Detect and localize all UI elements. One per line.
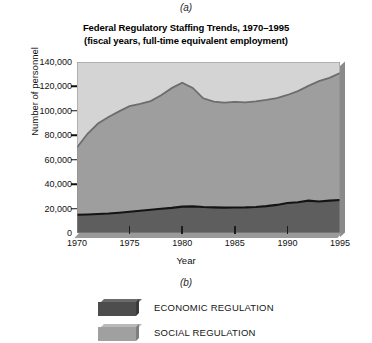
legend-swatch [98, 324, 142, 341]
legend-swatch [98, 299, 142, 316]
legend-item: ECONOMIC REGULATION [98, 296, 358, 318]
x-tick-label: 1975 [120, 238, 140, 248]
legend-label: SOCIAL REGULATION [154, 327, 256, 338]
chart-plot-container: 020,00040,00060,00080,000100,000120,0001… [0, 0, 372, 275]
x-axis-title: Year [0, 255, 372, 266]
x-tick-label: 1980 [172, 238, 192, 248]
legend-item: SOCIAL REGULATION [98, 321, 358, 343]
legend-swatch-side [136, 299, 139, 316]
x-tick-mark [129, 226, 131, 234]
legend-swatch-face [98, 327, 136, 341]
legend-label: ECONOMIC REGULATION [154, 302, 274, 313]
chart-legend: ECONOMIC REGULATIONSOCIAL REGULATION [98, 296, 358, 343]
x-tick-mark [234, 226, 236, 234]
x-tick-label: 1995 [330, 238, 350, 248]
x-tick-label: 1970 [67, 238, 87, 248]
legend-swatch-face [98, 302, 136, 316]
x-tick-mark [287, 226, 289, 234]
x-axis: 197019751980198519901995 [0, 0, 372, 275]
x-tick-mark [181, 226, 183, 234]
x-tick-label: 1990 [277, 238, 297, 248]
legend-swatch-side [136, 324, 139, 341]
panel-label-b: (b) [0, 277, 372, 288]
x-tick-label: 1985 [225, 238, 245, 248]
